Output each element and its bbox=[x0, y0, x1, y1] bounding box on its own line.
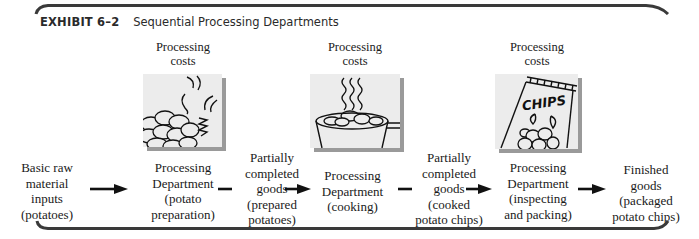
cooking-pot-icon bbox=[310, 74, 400, 148]
flow-node-inspecting-packing: ProcessingDepartment(inspectingand packi… bbox=[493, 160, 583, 222]
raw-potatoes-illustration bbox=[143, 74, 222, 147]
flow-node-raw-materials: Basic rawmaterialinputs(potatoes) bbox=[2, 160, 92, 222]
processing-costs-label-2: Processingcosts bbox=[310, 40, 400, 68]
processing-costs-label-1: Processingcosts bbox=[138, 40, 228, 68]
exhibit-title: EXHIBIT 6–2 Sequential Processing Depart… bbox=[40, 15, 339, 29]
cooking-pot-illustration bbox=[310, 74, 400, 148]
exhibit-number: EXHIBIT 6–2 bbox=[40, 15, 119, 29]
raw-potatoes-icon bbox=[143, 74, 222, 147]
chips-bag-text: CHIPS bbox=[521, 92, 567, 113]
flow-node-finished-goods: Finishedgoods(packagedpotato chips) bbox=[600, 162, 692, 224]
arrow-right-icon bbox=[466, 183, 492, 195]
exhibit-caption: Sequential Processing Departments bbox=[133, 15, 339, 29]
chips-bag-illustration: CHIPS bbox=[495, 74, 578, 149]
processing-costs-label-3: Processingcosts bbox=[492, 40, 582, 68]
bottom-border-bracket bbox=[34, 220, 670, 234]
flow-node-cooking: ProcessingDepartment(cooking) bbox=[305, 168, 400, 215]
top-border-bracket bbox=[34, 3, 670, 15]
chips-bag-icon: CHIPS bbox=[495, 74, 578, 149]
arrow-right-icon bbox=[90, 183, 128, 195]
